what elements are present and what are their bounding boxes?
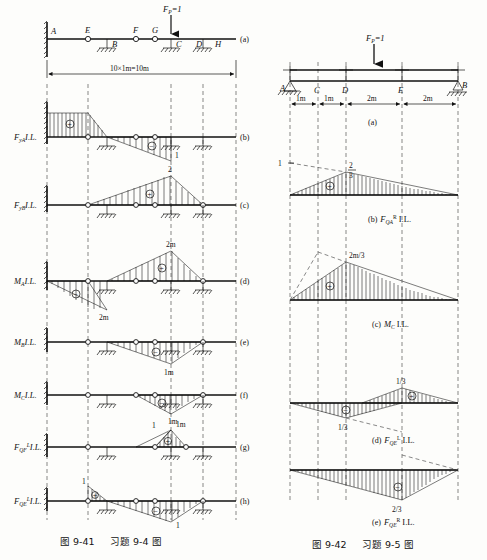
right-dimension-chain: 1m 1m 2m 2m xyxy=(292,94,456,104)
caption-fig-left: 图 9-41 xyxy=(60,536,95,547)
value-FyB-2: 2 xyxy=(168,165,172,174)
right-node-C: C xyxy=(314,85,320,95)
dimension-line: 10×1m=10m xyxy=(47,60,236,78)
panel-letter-g: (g) xyxy=(240,443,250,452)
row-label-FyA: FyAI.L. xyxy=(13,132,37,143)
sign-minus-h: − xyxy=(153,507,158,516)
panel-b-FyA-IL: FyAI.L. + xyxy=(13,101,250,161)
right-panel-label-b: (b)FQARI.L. xyxy=(368,214,411,226)
right-node-E: E xyxy=(397,85,404,95)
right-panel-a-beam: FP=1 A C D E B 1m 1m 2m 2m (a) xyxy=(278,33,467,127)
right-sign-minus-e: − xyxy=(395,483,400,492)
node-label-F: F xyxy=(132,25,139,35)
value-FQE-1-top: 1 xyxy=(82,477,86,486)
value-FQF-1m: 1m xyxy=(176,420,186,429)
row-label-MB: MBI.L. xyxy=(13,337,36,348)
right-node-D: D xyxy=(341,85,349,95)
svg-text:习题 9-5 图: 习题 9-5 图 xyxy=(362,539,414,550)
fraction-denominator: 3 xyxy=(349,171,353,180)
right-panel-c-MC-IL: + 2m/3 (c)MCI.L. xyxy=(290,251,458,330)
fixed-support-A xyxy=(44,21,47,58)
row-label-FQF-L: FQFLI.L. xyxy=(13,442,42,454)
caption-fig-right: 图 9-42 xyxy=(312,539,347,550)
caption-left: 图 9-41 习题 9-4 图 xyxy=(60,536,162,547)
svg-text:图 9-41: 图 9-41 xyxy=(60,536,95,547)
station-dashes xyxy=(47,84,236,520)
right-node-A: A xyxy=(279,83,286,93)
dimension-label: 10×1m=10m xyxy=(110,64,149,73)
panel-h-FQE-L-IL: FQELI.L. + 1 − 1 xyxy=(13,477,250,530)
right-value-b-fraction: 2 3 xyxy=(348,161,356,180)
figure-9-41: FP=1 A E F G H B C D 10×1m=10m (a) FyAI.… xyxy=(0,0,250,560)
right-dim-1: 1m xyxy=(296,94,306,103)
node-label-G: G xyxy=(152,25,158,35)
sign-plus-d: + xyxy=(159,264,164,273)
panel-c-FyB-IL: FyBI.L. + 2 xyxy=(13,165,249,218)
right-node-B: B xyxy=(462,80,467,90)
svg-text:图 9-42: 图 9-42 xyxy=(312,539,347,550)
support-label-D: D xyxy=(195,39,203,49)
construction-line-e xyxy=(402,455,458,470)
value-MA-2m-low: 2m xyxy=(99,313,109,322)
value-FQE-1-bot: 1 xyxy=(176,521,180,530)
right-value-b-1: 1 xyxy=(278,159,282,168)
sign-minus-d: − xyxy=(73,290,78,299)
node-label-E: E xyxy=(84,25,91,35)
sign-minus-e: − xyxy=(153,348,158,357)
row-label-FyB: FyBI.L. xyxy=(13,200,37,211)
sign-plus-g: + xyxy=(166,437,171,446)
caption-problem-right: 习题 9-5 图 xyxy=(362,539,414,550)
support-label-C: C xyxy=(176,39,182,49)
support-label-B: B xyxy=(112,39,117,49)
row-label-MC: MCI.L. xyxy=(13,390,37,401)
right-panel-d-FQEL-IL: − 1/3 + 1/3 (d)FQELI.L. xyxy=(290,377,458,446)
panel-letter-a: (a) xyxy=(240,35,249,44)
hinge-F xyxy=(133,36,138,41)
right-panel-label-d: (d)FQELI.L. xyxy=(372,435,415,447)
right-dim-4: 2m xyxy=(423,94,433,103)
right-value-c: 2m/3 xyxy=(349,251,365,260)
load-label: FP=1 xyxy=(162,4,182,15)
right-panel-tag-a: (a) xyxy=(368,118,377,127)
right-dim-3: 2m xyxy=(367,94,377,103)
node-label-H: H xyxy=(214,39,222,49)
panel-letter-d: (d) xyxy=(240,277,250,286)
right-sign-plus-c: + xyxy=(327,282,332,291)
row-label-MA: MAI.L. xyxy=(13,276,36,287)
panel-e-MB-IL: MBI.L. − 1m xyxy=(13,327,249,377)
svg-text:习题 9-4 图: 习题 9-4 图 xyxy=(110,536,162,547)
hinge-E xyxy=(85,36,90,41)
right-panel-b-FQAR-IL: + 1 2 3 (b)FQARI.L. xyxy=(278,159,458,225)
value-MB-1m: 1m xyxy=(164,368,174,377)
value-FyA-1: 1 xyxy=(175,151,179,160)
caption-right: 图 9-42 习题 9-5 图 xyxy=(312,539,414,550)
panel-g-FQF-L-IL: FQFLI.L. + 1 1m xyxy=(13,420,250,460)
right-load-label: FP=1 xyxy=(365,33,385,44)
panel-letter-b: (b) xyxy=(240,133,250,142)
construction-line-d xyxy=(346,418,402,432)
right-panel-label-e: (e)FQERI.L. xyxy=(372,517,415,529)
sign-plus-c: + xyxy=(147,190,152,199)
right-panel-e-FQER-IL: − 2/3 (e)FQERI.L. xyxy=(290,455,458,528)
figure-9-42: FP=1 A C D E B 1m 1m 2m 2m (a) xyxy=(250,0,487,560)
right-dim-2: 1m xyxy=(324,94,334,103)
panel-letter-f: (f) xyxy=(240,391,248,400)
panel-letter-c: (c) xyxy=(240,201,249,210)
caption-problem-left: 习题 9-4 图 xyxy=(110,536,162,547)
right-sign-plus-d: + xyxy=(409,392,414,401)
value-MA-2m-top: 2m xyxy=(166,240,176,249)
right-value-e: 2/3 xyxy=(392,505,402,514)
panel-letter-e: (e) xyxy=(240,338,249,347)
right-sign-plus-b: + xyxy=(327,182,332,191)
panel-a-beam: FP=1 A E F G H B C D 10×1m=10m (a) xyxy=(44,4,249,78)
right-panel-label-c: (c)MCI.L. xyxy=(372,319,409,330)
fraction-numerator: 2 xyxy=(349,161,353,170)
panel-d-MA-IL: MAI.L. − 2m xyxy=(13,240,250,322)
sign-minus: − xyxy=(149,142,154,151)
hinge-G xyxy=(152,36,157,41)
sign-plus-h: + xyxy=(93,491,98,500)
panel-f-MC-IL: MCI.L. − 1m xyxy=(13,381,248,426)
node-label-A: A xyxy=(50,26,57,36)
panel-letter-h: (h) xyxy=(240,497,250,506)
value-FQF-1: 1 xyxy=(152,421,156,430)
